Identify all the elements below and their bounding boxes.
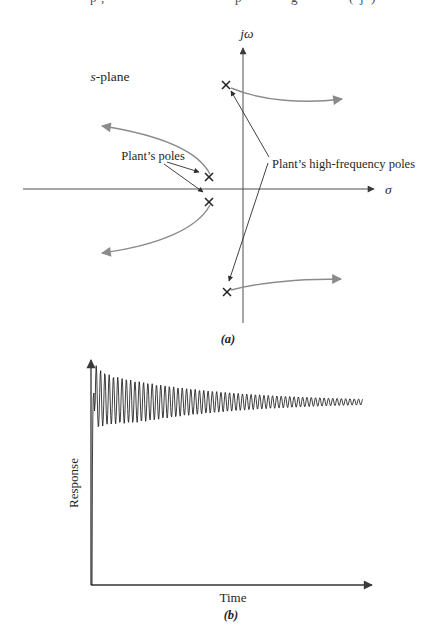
s-plane-label: s-plane <box>91 69 130 84</box>
s-plane-diagram: jω σ s-plane Plant’s poles Plant’s high-… <box>23 26 415 346</box>
hf-poles-label: Plant’s high-frequency poles <box>272 157 415 171</box>
real-axis-label: σ <box>385 182 393 197</box>
locus-branch-lower-right <box>231 279 341 290</box>
response-curve <box>92 366 363 585</box>
plant-poles-pointer-upper <box>167 162 199 172</box>
plant-poles-label: Plant’s poles <box>121 149 185 163</box>
plant-poles-pointer-lower <box>164 164 203 192</box>
response-ylabel: Response <box>66 458 81 508</box>
response-xlabel: Time <box>220 590 247 605</box>
hf-poles-pointer-upper <box>231 91 269 157</box>
hf-poles-pointer-lower <box>229 163 268 281</box>
caption-a: (a) <box>221 332 236 346</box>
response-plot: Response Time (b) <box>66 360 372 622</box>
locus-branch-upper-right <box>231 88 342 101</box>
imag-axis-label: jω <box>238 26 253 41</box>
figure-canvas: jω σ s-plane Plant’s poles Plant’s high-… <box>0 0 432 631</box>
caption-b: (b) <box>224 608 239 622</box>
locus-branch-lower-left <box>102 205 210 253</box>
